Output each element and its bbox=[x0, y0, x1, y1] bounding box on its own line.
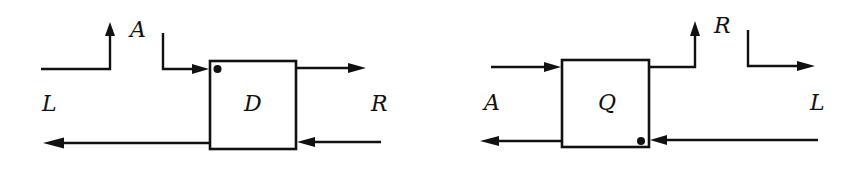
dot-marker-icon bbox=[214, 65, 222, 73]
diagram-d: L A D R bbox=[41, 17, 388, 149]
wire-q-to-r bbox=[649, 34, 695, 67]
arrow-left-icon bbox=[650, 135, 667, 145]
arrow-left-icon bbox=[480, 136, 499, 146]
arrow-right-icon bbox=[544, 62, 561, 72]
label-l: L bbox=[809, 90, 825, 115]
label-l: L bbox=[41, 91, 57, 116]
diagram-q: A Q R L bbox=[480, 13, 825, 147]
arrow-left-icon bbox=[297, 137, 315, 147]
arrow-right-icon bbox=[348, 63, 366, 73]
box-label-d: D bbox=[243, 91, 262, 116]
label-r: R bbox=[713, 13, 731, 38]
arrow-right-icon bbox=[797, 61, 815, 71]
box-label-q: Q bbox=[598, 90, 616, 115]
label-a: A bbox=[482, 90, 500, 115]
arrow-up-icon bbox=[105, 22, 115, 36]
label-a: A bbox=[128, 17, 146, 42]
wire-r-to-l bbox=[748, 30, 800, 66]
wire-l-to-a bbox=[41, 34, 110, 69]
arrow-up-icon bbox=[690, 21, 700, 36]
arrow-left-icon bbox=[43, 138, 64, 149]
wire-a-to-d bbox=[163, 33, 198, 69]
diagram-canvas: L A D R A Q R L bbox=[0, 0, 860, 195]
dot-marker-icon bbox=[637, 137, 645, 145]
arrow-right-icon bbox=[192, 64, 209, 74]
label-r: R bbox=[370, 91, 388, 116]
